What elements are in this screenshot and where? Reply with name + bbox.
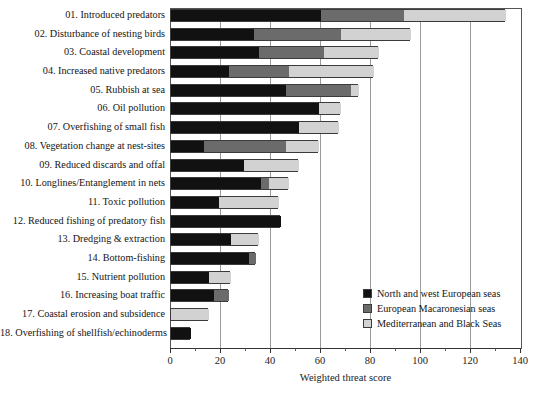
category-label: 11. Toxic pollution	[0, 195, 165, 209]
bar-segment	[319, 103, 342, 114]
stacked-bar-chart: 020406080100120140 Weighted threat score…	[0, 0, 537, 397]
bar-row: 03. Coastal development	[0, 45, 537, 64]
x-tick-label: 80	[350, 355, 390, 366]
x-tick-label: 140	[500, 355, 537, 366]
stacked-bar	[170, 177, 288, 190]
bar-segment	[171, 47, 259, 58]
x-minor-tick	[195, 348, 196, 351]
category-label: 13. Dredging & extraction	[0, 232, 165, 246]
bar-row: 14. Bottom-fishing	[0, 251, 537, 270]
stacked-bar	[170, 252, 255, 265]
bar-segment	[249, 253, 257, 264]
x-minor-tick	[245, 348, 246, 351]
bar-segment	[286, 85, 351, 96]
bar-segment	[171, 234, 231, 245]
bar-segment	[171, 178, 261, 189]
category-label: 04. Increased native predators	[0, 64, 165, 78]
bar-row: 05. Rubbish at sea	[0, 83, 537, 102]
legend-item: North and west European seas	[363, 287, 501, 301]
stacked-bar	[170, 28, 410, 41]
bar-row: 11. Toxic pollution	[0, 195, 537, 214]
bar-segment	[171, 328, 191, 339]
x-tick	[470, 348, 471, 353]
category-label: 03. Coastal development	[0, 45, 165, 59]
x-axis-title: Weighted threat score	[170, 372, 521, 383]
bar-segment	[171, 66, 229, 77]
legend-swatch	[363, 289, 372, 298]
bar-segment	[171, 309, 209, 320]
stacked-bar	[170, 121, 338, 134]
x-tick-label: 60	[300, 355, 340, 366]
x-tick	[320, 348, 321, 353]
x-tick	[420, 348, 421, 353]
bar-segment	[254, 29, 342, 40]
stacked-bar	[170, 233, 258, 246]
bar-row: 12. Reduced fishing of predatory fish	[0, 214, 537, 233]
bar-segment	[171, 10, 321, 21]
chart-legend: North and west European seasEuropean Mac…	[363, 287, 501, 332]
legend-item: European Macaronesian seas	[363, 302, 501, 316]
stacked-bar	[170, 327, 190, 340]
bar-segment	[404, 10, 507, 21]
x-tick	[270, 348, 271, 353]
legend-label: European Macaronesian seas	[377, 302, 495, 316]
x-minor-tick	[295, 348, 296, 351]
bar-segment	[299, 122, 339, 133]
category-label: 12. Reduced fishing of predatory fish	[0, 214, 165, 228]
bar-segment	[171, 160, 244, 171]
bar-segment	[171, 141, 204, 152]
bar-segment	[289, 66, 374, 77]
category-label: 07. Overfishing of small fish	[0, 120, 165, 134]
bar-segment	[321, 10, 404, 21]
x-tick	[520, 348, 521, 353]
category-label: 09. Reduced discards and offal	[0, 158, 165, 172]
category-label: 18. Overfishing of shellfish/echinoderms	[0, 326, 165, 340]
bar-segment	[341, 29, 411, 40]
x-tick-label: 100	[400, 355, 440, 366]
x-tick-label: 120	[450, 355, 490, 366]
bar-segment	[171, 197, 219, 208]
bar-row: 06. Oil pollution	[0, 101, 537, 120]
bar-segment	[286, 141, 319, 152]
stacked-bar	[170, 215, 280, 228]
bar-segment	[259, 47, 324, 58]
x-tick	[220, 348, 221, 353]
legend-label: North and west European seas	[377, 287, 500, 301]
bar-segment	[171, 103, 319, 114]
category-label: 01. Introduced predators	[0, 8, 165, 22]
x-tick-label: 40	[250, 355, 290, 366]
bar-segment	[171, 29, 254, 40]
bar-row: 04. Increased native predators	[0, 64, 537, 83]
bar-segment	[171, 272, 209, 283]
stacked-bar	[170, 46, 378, 59]
bar-segment	[229, 66, 289, 77]
legend-swatch	[363, 304, 372, 313]
stacked-bar	[170, 271, 230, 284]
x-minor-tick	[345, 348, 346, 351]
category-label: 14. Bottom-fishing	[0, 251, 165, 265]
bar-segment	[171, 122, 299, 133]
bar-segment	[171, 216, 281, 227]
x-minor-tick	[445, 348, 446, 351]
bar-segment	[204, 141, 287, 152]
category-label: 08. Vegetation change at nest-sites	[0, 139, 165, 153]
x-tick-label: 20	[200, 355, 240, 366]
bar-segment	[244, 160, 299, 171]
bar-row: 07. Overfishing of small fish	[0, 120, 537, 139]
x-minor-tick	[395, 348, 396, 351]
bar-row: 10. Longlines/Entanglement in nets	[0, 176, 537, 195]
bar-row: 13. Dredging & extraction	[0, 232, 537, 251]
stacked-bar	[170, 196, 278, 209]
x-tick	[170, 348, 171, 353]
legend-label: Mediterranean and Black Seas	[377, 317, 501, 331]
bar-segment	[171, 85, 286, 96]
category-label: 06. Oil pollution	[0, 101, 165, 115]
x-tick-label: 0	[150, 355, 190, 366]
bar-segment	[214, 290, 229, 301]
bar-segment	[269, 178, 289, 189]
stacked-bar	[170, 9, 505, 22]
stacked-bar	[170, 289, 228, 302]
stacked-bar	[170, 65, 373, 78]
bar-segment	[209, 272, 232, 283]
bar-row: 02. Disturbance of nesting birds	[0, 27, 537, 46]
